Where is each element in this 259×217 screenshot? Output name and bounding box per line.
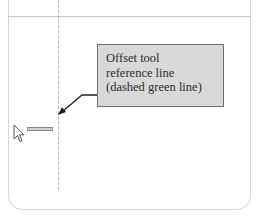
arrow-cursor-icon (13, 124, 27, 144)
callout-arrow-icon (0, 0, 259, 217)
offset-distance-input[interactable] (27, 127, 53, 131)
